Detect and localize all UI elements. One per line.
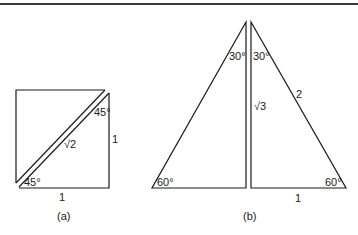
- angle-label-30-right: 30°: [253, 51, 270, 62]
- side-label-bottom: 1: [59, 192, 65, 203]
- angle-label-30-left: 30°: [229, 51, 246, 62]
- side-label-right: 1: [112, 134, 118, 145]
- hypotenuse-label-sqrt2: √2: [64, 139, 76, 150]
- angle-label-45-bottom: 45°: [24, 177, 41, 188]
- height-label-sqrt3: √3: [254, 101, 266, 112]
- panel-a-square: [16, 90, 109, 188]
- figure-drawing: [0, 0, 358, 235]
- caption-b: (b): [243, 211, 256, 222]
- angle-label-60-left: 60°: [157, 177, 174, 188]
- angle-label-60-right: 60°: [325, 177, 342, 188]
- base-label-1: 1: [295, 193, 301, 204]
- caption-a: (a): [57, 211, 70, 222]
- hypotenuse-label-2: 2: [296, 89, 302, 100]
- panel-b-triangles: [152, 22, 346, 188]
- angle-label-45-top: 45°: [94, 107, 111, 118]
- geometry-figure: 45° 45° √2 1 1 (a) 30° 30° √3 2 60° 60° …: [0, 0, 358, 235]
